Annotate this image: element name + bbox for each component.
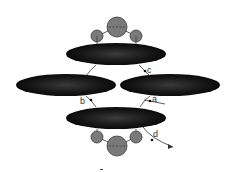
top-molecule-cluster: [91, 17, 142, 44]
label-b: b: [80, 96, 85, 106]
point-b-icon: [90, 99, 93, 102]
diagram-canvas: c b a d: [0, 0, 230, 172]
bottom-molecule-cluster: [91, 129, 142, 156]
bottom-ellipse: [66, 107, 166, 129]
small-circle-icon: [130, 131, 142, 143]
top-ellipse: [66, 43, 166, 65]
left-ellipse: [16, 74, 116, 96]
path-b: [86, 96, 96, 107]
label-c: c: [147, 65, 152, 75]
right-ellipse: [120, 74, 220, 96]
path-a-in: [140, 96, 150, 107]
label-a: a: [152, 94, 157, 104]
point-d-icon: [151, 139, 154, 142]
point-c-icon: [144, 70, 147, 73]
small-circle-icon: [91, 131, 103, 143]
bottom-mark: [100, 169, 103, 170]
path-top-left: [86, 65, 96, 76]
point-a-icon: [149, 100, 152, 103]
label-d: d: [153, 129, 158, 139]
